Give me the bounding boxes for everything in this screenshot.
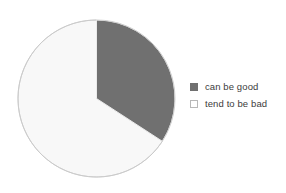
legend-item-label: tend to be bad <box>205 98 267 109</box>
pie-chart-figure: can be good tend to be bad <box>0 0 286 193</box>
pie-chart-svg <box>17 19 176 178</box>
legend-swatch-icon <box>190 100 198 108</box>
legend-swatch-icon <box>190 83 198 91</box>
legend-item-tend-to-be-bad[interactable]: tend to be bad <box>190 95 282 112</box>
pie-chart-plot-area <box>17 19 176 178</box>
legend-item-can-be-good[interactable]: can be good <box>190 78 282 95</box>
chart-legend: can be good tend to be bad <box>190 78 282 112</box>
legend-item-label: can be good <box>205 81 258 92</box>
